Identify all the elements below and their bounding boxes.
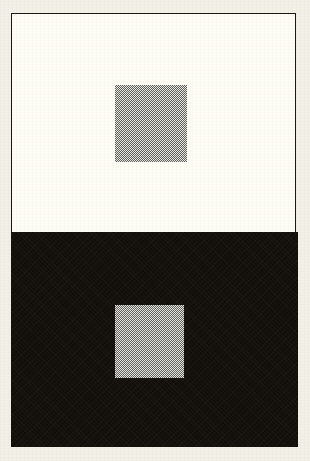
upper-light-field [11, 13, 296, 233]
figure-page: Both grey squares are printed at the sam… [0, 0, 310, 461]
grey-patch-on-light [115, 85, 187, 162]
lower-field-inner [11, 232, 298, 447]
grey-patch-on-dark [115, 305, 184, 378]
illustration-plate [11, 13, 296, 447]
lower-dark-field [11, 232, 298, 447]
